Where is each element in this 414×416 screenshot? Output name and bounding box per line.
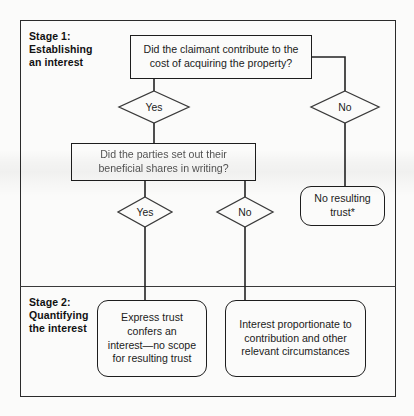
decision-yes-contribution-label: Yes — [118, 90, 190, 124]
node-no-resulting-trust[interactable]: No resulting trust* — [300, 186, 385, 226]
decision-yes-written-shares[interactable]: Yes — [117, 196, 173, 228]
decision-no-contribution-label: No — [310, 90, 380, 124]
node-proportionate-interest-text: Interest proportionate to contribution a… — [239, 318, 351, 359]
stage-1-label: Stage 1: Establishing an interest — [29, 30, 125, 70]
node-question-written-shares[interactable]: Did the parties set out their beneficial… — [71, 143, 256, 181]
decision-no-contribution[interactable]: No — [310, 90, 380, 124]
node-proportionate-interest[interactable]: Interest proportionate to contribution a… — [225, 300, 366, 377]
node-no-resulting-trust-text: No resulting trust* — [314, 192, 371, 220]
node-question-contribution[interactable]: Did the claimant contribute to the cost … — [130, 35, 312, 79]
node-question-written-shares-text: Did the parties set out their beneficial… — [98, 148, 228, 176]
node-question-contribution-text: Did the claimant contribute to the cost … — [144, 43, 299, 71]
decision-yes-contribution[interactable]: Yes — [118, 90, 190, 124]
decision-no-written-shares-label: No — [216, 196, 274, 228]
flowchart-page: Stage 1: Establishing an interest Stage … — [0, 0, 414, 416]
stage-divider — [20, 286, 396, 287]
node-express-trust-text: Express trust confers an interest—no sco… — [108, 311, 196, 366]
decision-no-written-shares[interactable]: No — [216, 196, 274, 228]
node-express-trust[interactable]: Express trust confers an interest—no sco… — [97, 300, 207, 377]
decision-yes-written-shares-label: Yes — [117, 196, 173, 228]
